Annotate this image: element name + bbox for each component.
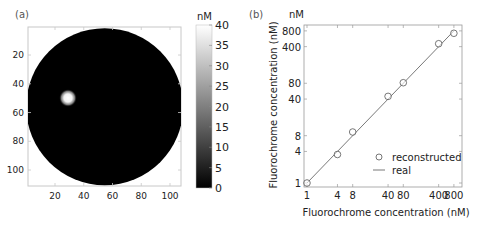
colorbar-tick-label: 0 [215, 182, 222, 195]
x-tick-label: 40 [78, 191, 90, 201]
panel-a: (a) 20406080100 20406080100 nM 051015202… [7, 9, 229, 201]
colorbar-tick-label: 20 [215, 101, 229, 114]
data-point [304, 180, 311, 187]
x-tick-label: 100 [161, 191, 178, 201]
y-tick-label: 80 [13, 136, 25, 146]
y-tick-label: 20 [13, 50, 25, 60]
data-point [435, 40, 442, 47]
data-point [385, 93, 392, 100]
y-tick-label: 40 [288, 94, 301, 105]
y-tick-label: 4 [295, 146, 301, 157]
y-tick-label: 800 [282, 26, 301, 37]
colorbar-tick-label: 15 [215, 121, 229, 134]
colorbar-tick-label: 25 [215, 80, 229, 93]
data-point [400, 79, 407, 86]
colorbar-tick-label: 10 [215, 141, 229, 154]
panel-b-label: (b) [249, 9, 263, 20]
panel-b-unit-label: nM [289, 9, 304, 20]
y-tick-label: 80 [288, 78, 301, 89]
x-tick-label: 800 [444, 190, 463, 201]
y-tick-label: 400 [282, 42, 301, 53]
panel-a-label: (a) [15, 9, 29, 20]
colorbar-tick-label: 5 [215, 162, 222, 175]
data-point [334, 151, 341, 158]
y-tick-label: 40 [13, 79, 25, 89]
x-tick-label: 8 [350, 190, 356, 201]
x-tick-label: 40 [382, 190, 395, 201]
legend-reconstructed: reconstructed [392, 152, 462, 163]
x-tick-label: 20 [49, 191, 61, 201]
legend-real: real [392, 165, 411, 176]
figure: (a) 20406080100 20406080100 nM 051015202… [0, 0, 478, 231]
bright-inclusion [59, 89, 77, 107]
y-tick-label: 8 [295, 131, 301, 142]
disk-region [26, 28, 183, 185]
colorbar-tick-label: 40 [215, 19, 229, 32]
data-point [451, 30, 458, 37]
y-tick-label: 1 [295, 178, 301, 189]
x-tick-label: 80 [397, 190, 410, 201]
panel-b: (b) nM 1484080400800 1484080400800 Fluor… [249, 9, 470, 218]
x-tick-label: 4 [334, 190, 340, 201]
x-tick-label: 60 [107, 191, 119, 201]
panel-b-x-axis-label: Fluorochrome concentration (nM) [302, 207, 469, 218]
x-tick-label: 80 [136, 191, 148, 201]
colorbar-tick-label: 35 [215, 39, 229, 52]
panel-b-y-axis-label: Fluorochrome concentration (nM) [268, 21, 279, 188]
y-tick-label: 100 [7, 165, 24, 175]
x-tick-label: 1 [304, 190, 310, 201]
colorbar-unit-label: nM [197, 11, 212, 22]
colorbar-tick-label: 30 [215, 60, 229, 73]
data-point [349, 129, 356, 136]
y-tick-label: 60 [13, 108, 25, 118]
